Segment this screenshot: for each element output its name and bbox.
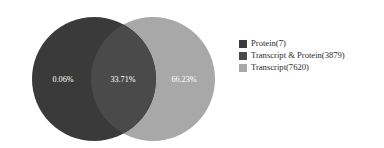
chart-legend: Protein(7) Transcript & Protein(3879) Tr… — [239, 38, 384, 74]
legend-item-protein: Protein(7) — [239, 38, 384, 50]
venn-diagram: 0.06% 33.71% 66.23% — [0, 0, 232, 148]
legend-swatch-icon-transcript — [239, 64, 247, 72]
legend-label-transcript-and-protein: Transcript & Protein(3879) — [251, 50, 345, 61]
legend-item-transcript-and-protein: Transcript & Protein(3879) — [239, 50, 384, 62]
legend-item-transcript: Transcript(7620) — [239, 62, 384, 74]
venn-label-intersection-percent: 33.71% — [110, 75, 135, 84]
venn-label-transcript-percent: 66.23% — [171, 75, 196, 84]
venn-label-protein-percent: 0.06% — [52, 75, 73, 84]
venn-diagram-svg: 0.06% 33.71% 66.23% — [0, 0, 232, 148]
legend-label-protein: Protein(7) — [251, 38, 286, 49]
venn-chart-figure: 0.06% 33.71% 66.23% Protein(7) Transcrip… — [0, 0, 384, 148]
legend-label-transcript: Transcript(7620) — [251, 62, 309, 73]
legend-swatch-icon-protein — [239, 40, 247, 48]
legend-swatch-icon-transcript-and-protein — [239, 52, 247, 60]
